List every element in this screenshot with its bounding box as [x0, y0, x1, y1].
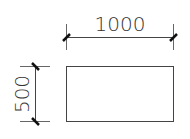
rectangle-shape	[67, 67, 174, 122]
height-dimension: 500	[10, 63, 50, 125]
width-dimension-label: 1000	[95, 12, 146, 36]
dimension-drawing: 1000 500	[0, 0, 190, 139]
width-dimension: 1000	[63, 12, 177, 50]
height-dimension-label: 500	[10, 75, 34, 113]
